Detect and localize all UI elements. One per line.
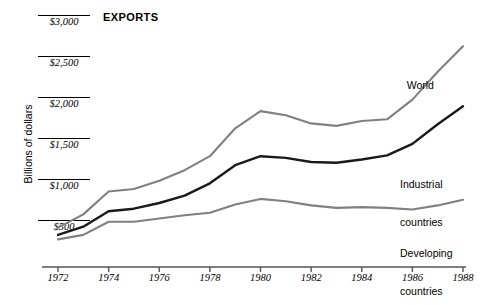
series-annotation-industrial-line1: Industrial [400,178,443,191]
series-annotation-developing-line1: Developing [400,247,453,260]
series-annotation-world-text: World [407,79,434,91]
series-annotation-developing-line2: countries [400,285,453,298]
exports-line-chart: EXPORTS Billions of dollars $500$1,000$1… [0,0,502,305]
series-annotation-developing-countries: Developing countries [400,222,453,305]
series-annotation-world: World [395,66,434,104]
